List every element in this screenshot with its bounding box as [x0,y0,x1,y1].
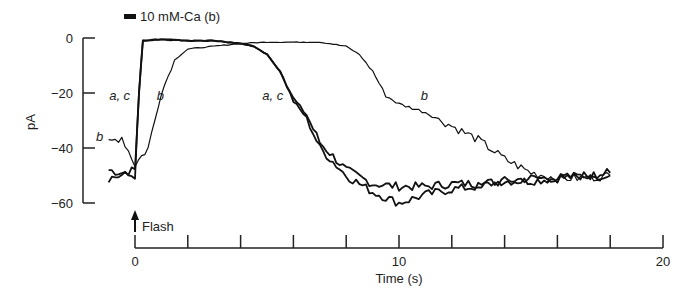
chart: 10 mM-Ca (b) 0 −20 −40 −60 pA Flash [0,0,683,300]
y-axis-label: pA [23,114,38,130]
curve-label: a, c [109,88,130,103]
x-axis: 0 10 20 Time (s) [131,235,670,286]
ca-bar-icon [124,14,136,19]
y-axis: 0 −20 −40 −60 pA [23,31,95,211]
trace-a [109,39,611,191]
curve-labels: a, cbba, cb [96,88,428,144]
x-axis-label: Time (s) [375,271,422,286]
x-tick-0: 0 [131,254,138,269]
x-tick-20: 20 [656,254,670,269]
curve-label: b [421,88,428,103]
flash-marker: Flash [131,210,174,234]
y-tick-40: −40 [51,141,73,156]
traces [109,39,611,206]
trace-c [109,39,611,205]
curve-label: b [157,88,164,103]
y-tick-60: −60 [51,196,73,211]
ca-bar-label: 10 mM-Ca (b) [140,9,220,24]
curve-label: a, c [262,88,283,103]
y-tick-0: 0 [66,31,73,46]
flash-label: Flash [142,219,174,234]
trace-b [109,42,611,183]
x-tick-10: 10 [392,254,406,269]
y-tick-20: −20 [51,86,73,101]
curve-label: b [96,129,103,144]
